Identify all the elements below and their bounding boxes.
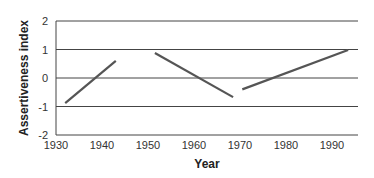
x-axis-ticks: 1930194019501960197019801990 (44, 139, 344, 151)
x-tick-label: 1930 (44, 139, 68, 151)
x-tick-label: 1990 (320, 139, 344, 151)
data-line-segment-3 (242, 50, 348, 89)
y-axis-ticks: 210-1-2 (38, 15, 48, 141)
data-lines (65, 50, 348, 103)
y-tick-label: 1 (42, 44, 48, 56)
x-tick-label: 1950 (136, 139, 160, 151)
y-tick-label: 2 (42, 15, 48, 27)
y-tick-label: -1 (38, 101, 48, 113)
x-tick-label: 1940 (90, 139, 114, 151)
data-line-segment-2 (155, 53, 233, 97)
data-line-segment-1 (65, 61, 116, 103)
y-tick-label: 0 (42, 72, 48, 84)
chart: 210-1-2 1930194019501960197019801990 Ass… (0, 0, 374, 178)
x-axis-title: Year (194, 157, 220, 171)
x-tick-label: 1970 (228, 139, 252, 151)
x-tick-label: 1980 (274, 139, 298, 151)
x-tick-label: 1960 (182, 139, 206, 151)
y-axis-title: Assertiveness index (17, 20, 31, 136)
gridlines (56, 21, 358, 135)
